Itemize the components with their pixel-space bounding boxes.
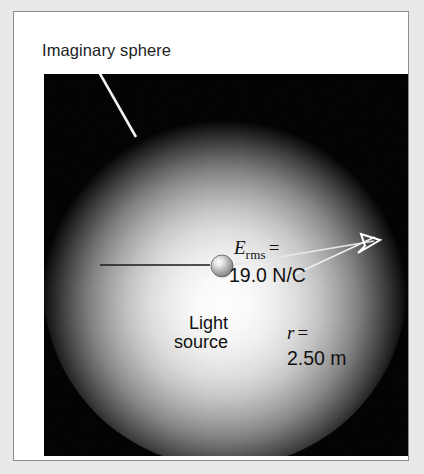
radius-equals-sign: =: [297, 322, 308, 343]
imaginary-sphere-caption: Imaginary sphere: [42, 41, 171, 60]
field-value: 19.0 N/C: [229, 264, 306, 287]
radius-label: r=: [287, 322, 308, 344]
figure-frame: Imaginary sphere: [13, 11, 409, 461]
radius-symbol: r: [287, 322, 294, 343]
light-source-label-line1: Light: [189, 313, 228, 333]
field-label: Erms=: [234, 237, 279, 263]
sphere-image-panel: Erms= 19.0 N/C Light source r= 2.50 m: [44, 74, 408, 456]
figure-root: Imaginary sphere: [0, 0, 424, 474]
radius-value: 2.50 m: [287, 347, 347, 370]
field-subscript: rms: [246, 247, 266, 262]
field-equals-sign: =: [269, 237, 280, 258]
light-source-label-line2: source: [174, 332, 228, 352]
glow-sphere-graphic: [44, 74, 408, 456]
field-symbol: E: [234, 237, 246, 258]
light-source-label: Light source: [166, 314, 228, 352]
